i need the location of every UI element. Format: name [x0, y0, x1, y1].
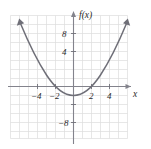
y-axis-arrow-icon [71, 11, 76, 17]
graph-figure: −4 −2 2 4 8 4 −8 f(x) x [0, 0, 151, 149]
y-axis [71, 11, 76, 144]
x-tick-label-4: 4 [107, 91, 112, 101]
y-tick-label-4: 4 [62, 47, 67, 57]
x-tick-label-2: 2 [89, 91, 94, 101]
x-tick-label-neg2: −2 [49, 91, 60, 101]
x-axis-title: x [132, 89, 138, 99]
x-axis [8, 84, 131, 89]
y-tick-label-neg8: −8 [58, 118, 69, 128]
parabola-plot: −4 −2 2 4 8 4 −8 f(x) x [0, 0, 151, 149]
x-axis-arrow-icon [126, 84, 132, 89]
grid-lines [11, 16, 128, 139]
x-tick-label-neg4: −4 [31, 91, 42, 101]
y-axis-title: f(x) [79, 10, 92, 21]
y-tick-label-8: 8 [62, 29, 67, 39]
